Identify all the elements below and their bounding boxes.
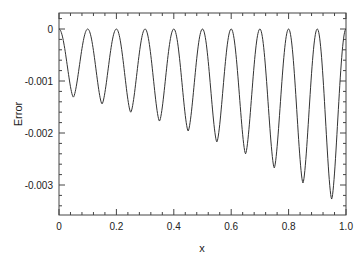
- error-curve: [59, 29, 346, 199]
- y-tick-label: -0.001: [25, 76, 54, 87]
- x-axis-label: x: [199, 242, 205, 254]
- x-tick-label: 0.8: [282, 221, 296, 232]
- y-tick-labels: 0-0.001-0.002-0.003: [25, 24, 54, 191]
- x-tick-label: 0.4: [167, 221, 181, 232]
- x-tick-label: 0: [56, 221, 62, 232]
- y-tick-label: 0: [47, 24, 53, 35]
- plot-frame: [59, 13, 346, 215]
- x-tick-label: 0.2: [109, 221, 123, 232]
- y-axis-label: Error: [12, 101, 24, 126]
- x-tick-label: 1.0: [339, 221, 353, 232]
- x-tick-labels: 00.20.40.60.81.0: [56, 221, 353, 232]
- error-line-chart: 00.20.40.60.81.0 0-0.001-0.002-0.003 x E…: [0, 0, 363, 261]
- y-tick-label: -0.003: [25, 180, 54, 191]
- axis-ticks: [59, 13, 346, 215]
- y-tick-label: -0.002: [25, 128, 54, 139]
- x-tick-label: 0.6: [224, 221, 238, 232]
